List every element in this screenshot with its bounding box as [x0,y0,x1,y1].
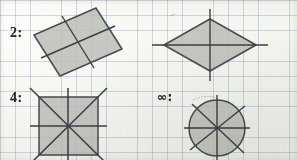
figure-rhombus [152,9,268,81]
pencil-smudge-top-icon [170,14,175,16]
dotted-arc-icon [193,96,217,100]
label-infinite-lines-of-symmetry: ∞: [157,90,173,104]
label-four-lines-of-symmetry: 4: [10,90,23,106]
label-two-lines-of-symmetry: 2: [10,25,23,41]
figure-rectangle-tilted [34,8,122,76]
worksheet-sheet: 2: 4: ∞: [0,0,297,160]
figure-circle [184,95,250,160]
figure-square [30,88,107,160]
figures-layer [0,0,297,160]
